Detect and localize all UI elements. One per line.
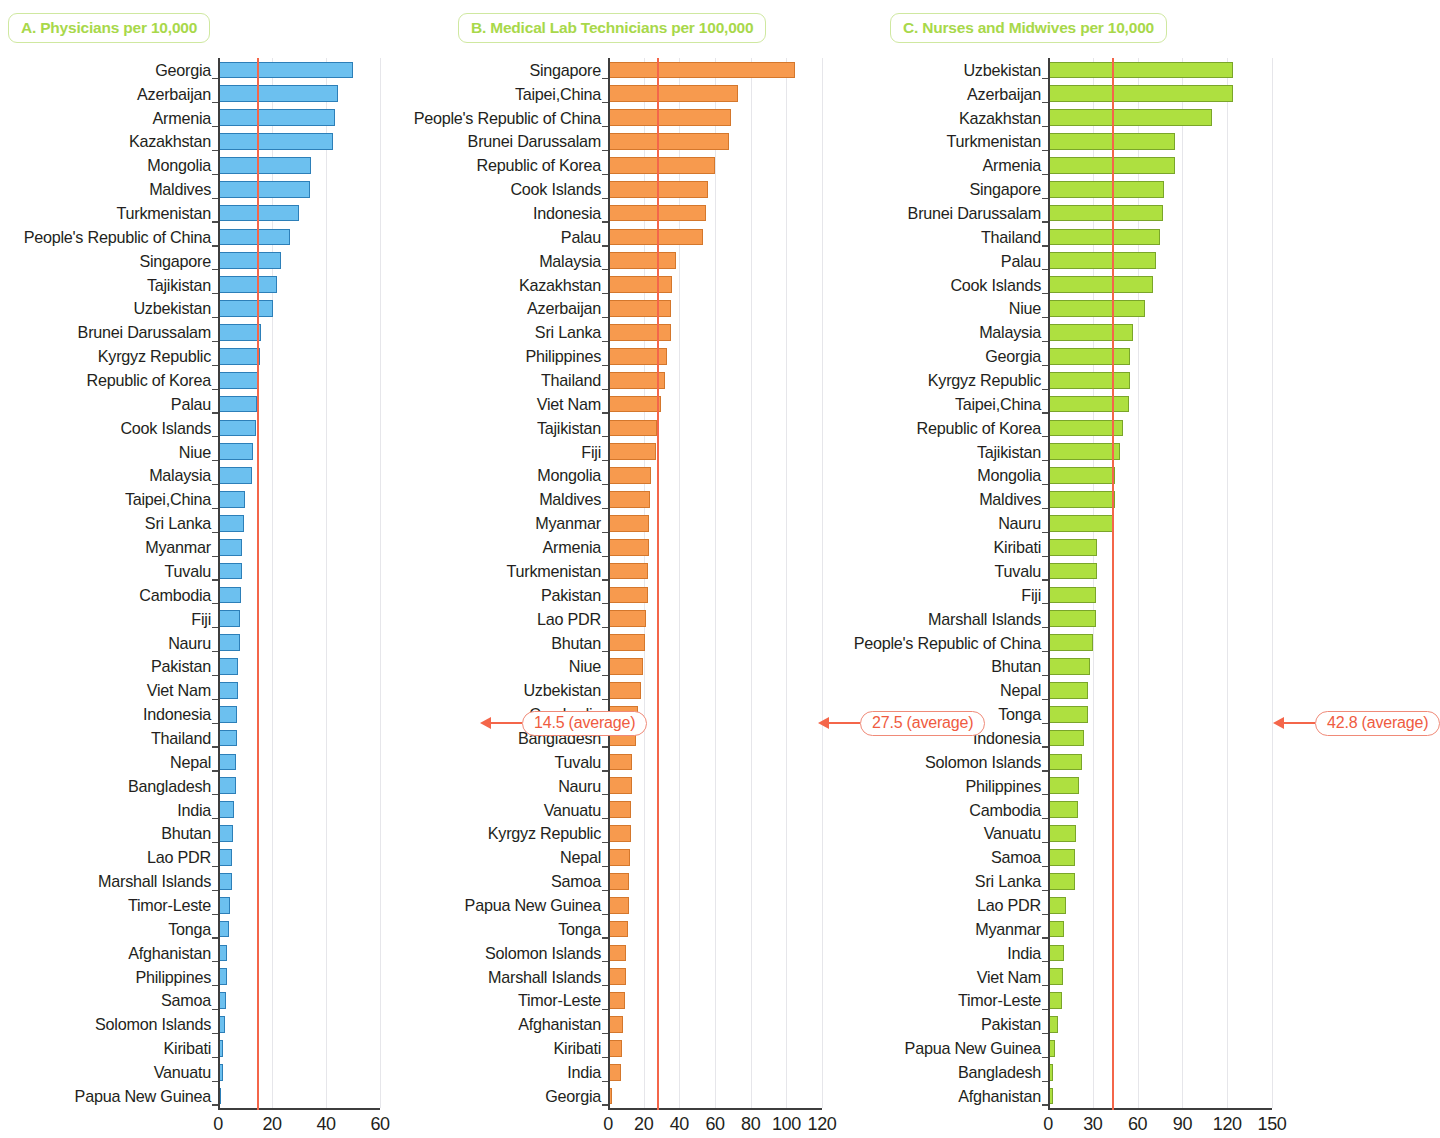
bar-row[interactable]: Malaysia bbox=[608, 252, 822, 269]
bar-row[interactable]: People's Republic of China bbox=[218, 229, 380, 246]
bar-row[interactable]: Lao PDR bbox=[608, 610, 822, 627]
bar[interactable] bbox=[218, 539, 242, 556]
bar-row[interactable]: Indonesia bbox=[218, 706, 380, 723]
bar[interactable] bbox=[608, 85, 738, 102]
bar-row[interactable]: Brunei Darussalam bbox=[1048, 205, 1272, 222]
bar-row[interactable]: Bhutan bbox=[1048, 658, 1272, 675]
bar[interactable] bbox=[218, 443, 253, 460]
bar[interactable] bbox=[608, 539, 649, 556]
bar-row[interactable]: Marshall Islands bbox=[218, 873, 380, 890]
bar[interactable] bbox=[218, 563, 242, 580]
bar-row[interactable]: Singapore bbox=[218, 252, 380, 269]
bar-row[interactable]: Tonga bbox=[608, 921, 822, 938]
bar-row[interactable]: Nauru bbox=[608, 777, 822, 794]
bar[interactable] bbox=[1048, 992, 1062, 1009]
bar-row[interactable]: Armenia bbox=[1048, 157, 1272, 174]
bar-row[interactable]: Philippines bbox=[218, 968, 380, 985]
bar[interactable] bbox=[1048, 682, 1088, 699]
bar[interactable] bbox=[218, 491, 245, 508]
bar[interactable] bbox=[608, 396, 661, 413]
bar[interactable] bbox=[218, 897, 230, 914]
bar[interactable] bbox=[218, 730, 237, 747]
bar[interactable] bbox=[218, 825, 233, 842]
bar[interactable] bbox=[608, 443, 656, 460]
bar[interactable] bbox=[1048, 849, 1075, 866]
bar-row[interactable]: Kazakhstan bbox=[218, 133, 380, 150]
bar[interactable] bbox=[608, 324, 671, 341]
bar-row[interactable]: Vanuatu bbox=[1048, 825, 1272, 842]
bar[interactable] bbox=[608, 1040, 622, 1057]
bar-row[interactable]: India bbox=[1048, 945, 1272, 962]
bar-row[interactable]: Taipei,China bbox=[608, 85, 822, 102]
bar-row[interactable]: Malaysia bbox=[218, 467, 380, 484]
bar-row[interactable]: Kyrgyz Republic bbox=[608, 825, 822, 842]
bar-row[interactable]: Afghanistan bbox=[608, 1016, 822, 1033]
bar[interactable] bbox=[218, 610, 240, 627]
bar-row[interactable]: Republic of Korea bbox=[608, 157, 822, 174]
bar[interactable] bbox=[218, 133, 333, 150]
bar-row[interactable]: Palau bbox=[1048, 252, 1272, 269]
bar-row[interactable]: Uzbekistan bbox=[1048, 62, 1272, 79]
bar-row[interactable]: Tuvalu bbox=[608, 754, 822, 771]
bar[interactable] bbox=[608, 157, 715, 174]
bar-row[interactable]: Kazakhstan bbox=[608, 276, 822, 293]
bar-row[interactable]: Viet Nam bbox=[218, 682, 380, 699]
bar-row[interactable]: Maldives bbox=[218, 181, 380, 198]
bar-row[interactable]: Nepal bbox=[1048, 682, 1272, 699]
bar-row[interactable]: Fiji bbox=[608, 443, 822, 460]
bar-row[interactable]: Myanmar bbox=[1048, 921, 1272, 938]
bar-row[interactable]: Philippines bbox=[608, 348, 822, 365]
bar[interactable] bbox=[218, 157, 311, 174]
bar-row[interactable]: Viet Nam bbox=[608, 396, 822, 413]
bar-row[interactable]: Thailand bbox=[1048, 229, 1272, 246]
bar-row[interactable]: Kiribati bbox=[1048, 539, 1272, 556]
bar[interactable] bbox=[608, 873, 629, 890]
bar[interactable] bbox=[608, 754, 632, 771]
bar-row[interactable]: Nepal bbox=[608, 849, 822, 866]
bar-row[interactable]: Sri Lanka bbox=[1048, 873, 1272, 890]
bar[interactable] bbox=[218, 515, 244, 532]
bar[interactable] bbox=[218, 85, 338, 102]
bar[interactable] bbox=[1048, 825, 1076, 842]
bar[interactable] bbox=[218, 181, 310, 198]
bar-row[interactable]: Armenia bbox=[218, 109, 380, 126]
bar-row[interactable]: Bhutan bbox=[218, 825, 380, 842]
bar-row[interactable]: Vanuatu bbox=[218, 1064, 380, 1081]
bar[interactable] bbox=[608, 658, 643, 675]
bar[interactable] bbox=[1048, 873, 1075, 890]
bar[interactable] bbox=[608, 825, 631, 842]
bar-row[interactable]: Kiribati bbox=[218, 1040, 380, 1057]
bar-row[interactable]: Armenia bbox=[608, 539, 822, 556]
bar-row[interactable]: Indonesia bbox=[1048, 730, 1272, 747]
bar-row[interactable]: Timor-Leste bbox=[218, 897, 380, 914]
bar[interactable] bbox=[1048, 515, 1114, 532]
bar-row[interactable]: Kyrgyz Republic bbox=[1048, 372, 1272, 389]
bar[interactable] bbox=[608, 515, 649, 532]
bar-row[interactable]: Singapore bbox=[608, 62, 822, 79]
bar-row[interactable]: Tajikistan bbox=[218, 276, 380, 293]
bar[interactable] bbox=[1048, 921, 1064, 938]
bar-row[interactable]: Nauru bbox=[1048, 515, 1272, 532]
bar-row[interactable]: Tajikistan bbox=[1048, 443, 1272, 460]
bar-row[interactable]: Papua New Guinea bbox=[1048, 1040, 1272, 1057]
bar[interactable] bbox=[608, 587, 648, 604]
bar[interactable] bbox=[608, 777, 632, 794]
bar[interactable] bbox=[218, 754, 236, 771]
bar-row[interactable]: Niue bbox=[218, 443, 380, 460]
bar-row[interactable]: Samoa bbox=[1048, 849, 1272, 866]
bar[interactable] bbox=[1048, 85, 1233, 102]
bar[interactable] bbox=[218, 777, 236, 794]
bar[interactable] bbox=[1048, 754, 1082, 771]
bar-row[interactable]: Cambodia bbox=[1048, 801, 1272, 818]
bar-row[interactable]: Fiji bbox=[1048, 587, 1272, 604]
bar-row[interactable]: Maldives bbox=[1048, 491, 1272, 508]
bar-row[interactable]: Taipei,China bbox=[218, 491, 380, 508]
bar-row[interactable]: Singapore bbox=[1048, 181, 1272, 198]
bar[interactable] bbox=[218, 396, 257, 413]
bar[interactable] bbox=[218, 252, 281, 269]
bar[interactable] bbox=[218, 706, 237, 723]
bar-row[interactable]: Afghanistan bbox=[218, 945, 380, 962]
bar-row[interactable]: Myanmar bbox=[218, 539, 380, 556]
bar-row[interactable]: Lao PDR bbox=[218, 849, 380, 866]
bar-row[interactable]: Tuvalu bbox=[1048, 563, 1272, 580]
